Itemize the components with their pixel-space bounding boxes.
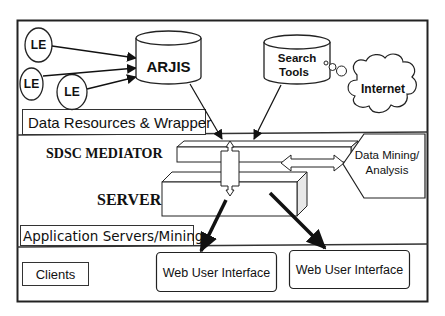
svg-text:Clients: Clients — [36, 267, 76, 282]
search-tools-database: Search Tools — [264, 35, 330, 84]
clients-section-label: Clients — [23, 263, 89, 286]
svg-text:ARJIS: ARJIS — [146, 58, 190, 75]
svg-text:Data Mining/: Data Mining/ — [355, 149, 420, 161]
svg-text:Web User Interface: Web User Interface — [296, 263, 404, 277]
le-node-3: LE — [57, 75, 87, 110]
svg-text:Web User Interface: Web User Interface — [163, 266, 271, 280]
mediator-label: SDSC MEDIATOR — [46, 146, 163, 161]
application-section-label: Application Servers/Mining — [21, 226, 204, 246]
architecture-diagram: Data Resources & Wrapper LE LE LE ARJIS … — [0, 0, 445, 316]
web-user-interface-2: Web User Interface — [290, 251, 410, 289]
le-node-2: LE — [20, 68, 43, 100]
data-resources-section-label: Data Resources & Wrapper — [23, 110, 212, 135]
svg-text:Application Servers/Mining: Application Servers/Mining — [23, 228, 203, 244]
svg-text:Internet: Internet — [361, 82, 405, 96]
svg-text:Data Resources & Wrapper: Data Resources & Wrapper — [28, 114, 211, 131]
svg-text:LE: LE — [24, 77, 39, 91]
web-user-interface-1: Web User Interface — [157, 253, 277, 292]
le-node-1: LE — [25, 28, 52, 62]
arjis-database: ARJIS — [136, 31, 201, 84]
svg-text:Tools: Tools — [279, 66, 309, 78]
server-label: SERVER — [97, 191, 162, 208]
svg-text:LE: LE — [64, 85, 79, 99]
svg-text:Analysis: Analysis — [366, 164, 409, 176]
svg-text:LE: LE — [31, 38, 46, 52]
svg-text:Search: Search — [278, 52, 316, 64]
